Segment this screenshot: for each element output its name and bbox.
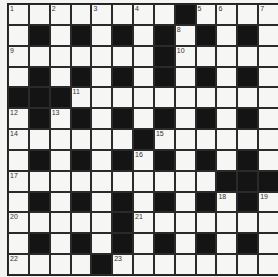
grid-cell[interactable]: 19 [258, 192, 278, 213]
grid-cell[interactable] [29, 171, 50, 192]
grid-cell[interactable] [29, 4, 50, 25]
grid-cell[interactable] [154, 4, 175, 25]
grid-cell[interactable]: 7 [258, 4, 278, 25]
grid-cell[interactable] [91, 108, 112, 129]
grid-cell[interactable] [175, 67, 196, 88]
grid-cell[interactable]: 14 [8, 129, 29, 150]
grid-cell[interactable] [133, 46, 154, 67]
grid-cell[interactable] [91, 150, 112, 171]
grid-cell[interactable]: 11 [71, 87, 92, 108]
grid-cell[interactable] [196, 46, 217, 67]
grid-cell[interactable] [112, 129, 133, 150]
grid-cell[interactable] [71, 254, 92, 275]
grid-cell[interactable] [8, 233, 29, 254]
grid-cell[interactable]: 22 [8, 254, 29, 275]
grid-cell[interactable] [237, 46, 258, 67]
grid-cell[interactable] [50, 25, 71, 46]
grid-cell[interactable] [196, 212, 217, 233]
grid-cell[interactable] [216, 25, 237, 46]
grid-cell[interactable] [258, 233, 278, 254]
grid-cell[interactable] [237, 129, 258, 150]
grid-cell[interactable] [71, 46, 92, 67]
grid-cell[interactable] [71, 171, 92, 192]
grid-cell[interactable]: 18 [216, 192, 237, 213]
grid-cell[interactable]: 10 [175, 46, 196, 67]
grid-cell[interactable] [216, 87, 237, 108]
grid-cell[interactable] [133, 254, 154, 275]
grid-cell[interactable] [91, 233, 112, 254]
grid-cell[interactable] [50, 212, 71, 233]
grid-cell[interactable]: 13 [50, 108, 71, 129]
grid-cell[interactable] [175, 87, 196, 108]
grid-cell[interactable] [216, 67, 237, 88]
grid-cell[interactable] [91, 171, 112, 192]
grid-cell[interactable] [133, 87, 154, 108]
grid-cell[interactable] [8, 192, 29, 213]
grid-cell[interactable] [258, 25, 278, 46]
grid-cell[interactable]: 2 [50, 4, 71, 25]
grid-cell[interactable]: 16 [133, 150, 154, 171]
grid-cell[interactable]: 17 [8, 171, 29, 192]
grid-cell[interactable] [175, 171, 196, 192]
grid-cell[interactable] [258, 212, 278, 233]
grid-cell[interactable] [175, 150, 196, 171]
grid-cell[interactable] [29, 212, 50, 233]
grid-cell[interactable] [216, 212, 237, 233]
grid-cell[interactable] [258, 67, 278, 88]
grid-cell[interactable]: 1 [8, 4, 29, 25]
grid-cell[interactable] [175, 254, 196, 275]
grid-cell[interactable] [8, 25, 29, 46]
grid-cell[interactable] [175, 212, 196, 233]
grid-cell[interactable] [175, 108, 196, 129]
grid-cell[interactable]: 15 [154, 129, 175, 150]
grid-cell[interactable] [91, 67, 112, 88]
grid-cell[interactable] [258, 254, 278, 275]
grid-cell[interactable] [29, 254, 50, 275]
grid-cell[interactable] [112, 46, 133, 67]
grid-cell[interactable] [216, 46, 237, 67]
grid-cell[interactable] [50, 46, 71, 67]
grid-cell[interactable]: 9 [8, 46, 29, 67]
grid-cell[interactable]: 5 [196, 4, 217, 25]
grid-cell[interactable] [175, 129, 196, 150]
grid-cell[interactable] [196, 171, 217, 192]
grid-cell[interactable]: 6 [216, 4, 237, 25]
grid-cell[interactable] [216, 254, 237, 275]
grid-cell[interactable] [133, 233, 154, 254]
grid-cell[interactable] [50, 171, 71, 192]
grid-cell[interactable] [71, 129, 92, 150]
grid-cell[interactable] [29, 46, 50, 67]
grid-cell[interactable] [237, 87, 258, 108]
grid-cell[interactable] [258, 150, 278, 171]
grid-cell[interactable] [154, 212, 175, 233]
grid-cell[interactable] [50, 67, 71, 88]
grid-cell[interactable] [50, 233, 71, 254]
grid-cell[interactable] [91, 192, 112, 213]
grid-cell[interactable]: 8 [175, 25, 196, 46]
grid-cell[interactable] [50, 254, 71, 275]
grid-cell[interactable] [71, 212, 92, 233]
grid-cell[interactable]: 12 [8, 108, 29, 129]
grid-cell[interactable] [29, 129, 50, 150]
grid-cell[interactable] [50, 150, 71, 171]
grid-cell[interactable] [91, 129, 112, 150]
grid-cell[interactable] [237, 212, 258, 233]
grid-cell[interactable] [175, 192, 196, 213]
grid-cell[interactable] [258, 46, 278, 67]
grid-cell[interactable] [216, 233, 237, 254]
grid-cell[interactable] [50, 129, 71, 150]
grid-cell[interactable] [91, 46, 112, 67]
grid-cell[interactable] [216, 129, 237, 150]
grid-cell[interactable] [133, 108, 154, 129]
grid-cell[interactable] [8, 150, 29, 171]
grid-cell[interactable] [154, 171, 175, 192]
grid-cell[interactable] [154, 254, 175, 275]
grid-cell[interactable] [133, 25, 154, 46]
grid-cell[interactable] [71, 4, 92, 25]
grid-cell[interactable] [196, 87, 217, 108]
grid-cell[interactable] [237, 4, 258, 25]
grid-cell[interactable] [91, 87, 112, 108]
grid-cell[interactable] [133, 67, 154, 88]
grid-cell[interactable] [175, 233, 196, 254]
grid-cell[interactable] [50, 192, 71, 213]
